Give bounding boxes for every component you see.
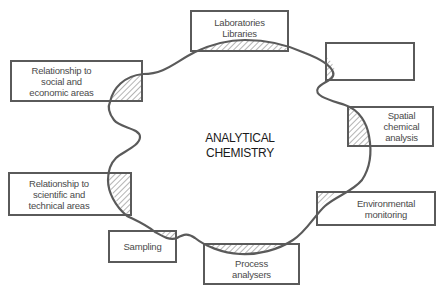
box-label: Relationship to scientific and technical… (29, 178, 90, 211)
box-label: Environmental monitoring (357, 198, 415, 220)
box-social-economic: Relationship to social and economic area… (10, 60, 143, 102)
box-label: Sampling (123, 241, 161, 252)
center-title: ANALYTICAL CHEMISTRY (188, 131, 292, 161)
box-scientific-technical: Relationship to scientific and technical… (8, 172, 132, 216)
box-process-analysers: Process analysers (203, 243, 300, 285)
box-label: Laboratories Libraries (214, 17, 264, 39)
box-spatial-chemical-analysis: Spatial chemical analysis (347, 106, 434, 147)
box-sampling: Sampling (108, 230, 177, 263)
box-label: Relationship to social and economic area… (29, 65, 93, 98)
box-label: Spatial chemical analysis (384, 110, 420, 143)
box-empty (325, 42, 415, 81)
box-laboratories-libraries: Laboratories Libraries (190, 10, 289, 52)
box-environmental-monitoring: Environmental monitoring (316, 191, 436, 226)
box-label: Process analysers (232, 258, 271, 280)
